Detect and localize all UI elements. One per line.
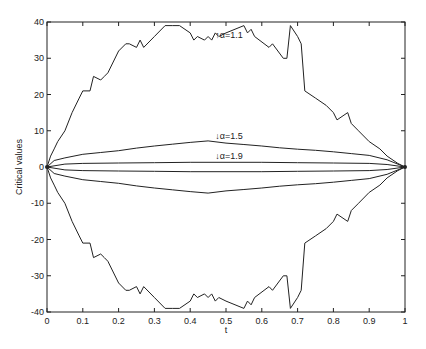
x-tick-label: 0.2 bbox=[112, 316, 125, 326]
plot-border bbox=[47, 22, 405, 312]
series-annotation: ↓α=1.9 bbox=[215, 151, 242, 161]
x-axis: 00.10.20.30.40.50.60.70.80.91 bbox=[44, 22, 407, 326]
y-tick-label: 30 bbox=[34, 53, 44, 63]
series-lines bbox=[45, 26, 407, 309]
x-tick-label: 0.1 bbox=[77, 316, 90, 326]
y-tick-label: -40 bbox=[31, 307, 44, 317]
x-tick-label: 0.3 bbox=[148, 316, 161, 326]
plot-frame bbox=[47, 22, 405, 312]
x-axis-label: t bbox=[225, 325, 228, 335]
x-tick-label: 0 bbox=[44, 316, 49, 326]
series-line bbox=[47, 162, 405, 167]
y-tick-label: -30 bbox=[31, 271, 44, 281]
y-tick-label: -10 bbox=[31, 198, 44, 208]
y-tick-label: 20 bbox=[34, 90, 44, 100]
critical-values-chart: 00.10.20.30.40.50.60.70.80.91 -40-30-20-… bbox=[0, 0, 426, 349]
y-tick-label: -20 bbox=[31, 235, 44, 245]
x-tick-label: 1 bbox=[402, 316, 407, 326]
end-point-marker bbox=[403, 165, 407, 169]
x-tick-label: 0.9 bbox=[363, 316, 376, 326]
series-annotation: ↓α=1.5 bbox=[215, 131, 242, 141]
start-point-marker bbox=[45, 165, 49, 169]
y-tick-label: 0 bbox=[39, 162, 44, 172]
annotations: ↑α=1.1↓α=1.5↓α=1.9 bbox=[215, 30, 242, 160]
x-tick-label: 0.4 bbox=[184, 316, 197, 326]
y-tick-label: 40 bbox=[34, 17, 44, 27]
y-axis-label: Critical values bbox=[14, 138, 24, 195]
series-line bbox=[47, 167, 405, 172]
x-tick-label: 0.7 bbox=[291, 316, 304, 326]
series-line bbox=[47, 26, 405, 167]
x-tick-label: 0.8 bbox=[327, 316, 340, 326]
series-line bbox=[47, 167, 405, 308]
x-tick-label: 0.6 bbox=[256, 316, 269, 326]
y-tick-label: 10 bbox=[34, 126, 44, 136]
y-axis: -40-30-20-10010203040 bbox=[31, 17, 405, 317]
series-annotation: ↑α=1.1 bbox=[215, 30, 242, 40]
